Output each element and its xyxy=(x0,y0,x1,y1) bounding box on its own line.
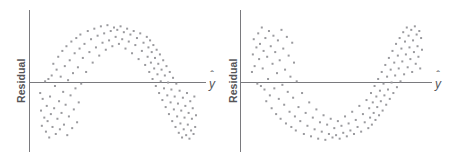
scatter-point xyxy=(61,50,63,52)
scatter-point xyxy=(131,52,133,54)
scatter-point xyxy=(380,100,382,102)
scatter-point xyxy=(403,73,405,75)
scatter-point xyxy=(83,43,85,45)
scatter-point xyxy=(49,96,51,98)
scatter-point xyxy=(417,45,419,47)
scatter-point xyxy=(48,136,50,138)
scatter-point xyxy=(305,112,307,114)
scatter-point xyxy=(90,38,92,40)
scatter-point xyxy=(143,42,145,44)
scatter-point xyxy=(420,37,422,39)
scatter-point xyxy=(282,48,284,50)
scatter-point xyxy=(165,65,167,67)
scatter-point xyxy=(126,28,128,30)
scatter-point xyxy=(139,32,141,34)
scatter-point xyxy=(175,126,177,128)
scatter-point xyxy=(55,133,57,135)
scatter-point xyxy=(396,86,398,88)
scatter-point xyxy=(324,139,326,141)
scatter-point xyxy=(399,37,401,39)
scatter-point xyxy=(121,38,123,40)
scatter-point xyxy=(45,131,47,133)
scatter-point xyxy=(289,111,291,113)
scatter-point xyxy=(269,94,271,96)
scatter-point xyxy=(308,101,310,103)
scatter-point xyxy=(70,41,72,43)
scatter-point xyxy=(67,79,69,81)
scatter-point xyxy=(290,126,292,128)
scatter-point xyxy=(68,115,70,117)
scatter-point xyxy=(74,52,76,54)
x-axis-label-yhat-left: y xyxy=(209,78,215,90)
residual-plot-valley-canvas xyxy=(225,0,451,162)
scatter-point xyxy=(97,35,99,37)
scatter-point xyxy=(299,120,301,122)
scatter-point xyxy=(381,71,383,73)
scatter-point xyxy=(152,78,154,80)
scatter-point xyxy=(253,38,255,40)
scatter-point xyxy=(295,129,297,131)
scatter-point xyxy=(303,133,305,135)
scatter-point xyxy=(79,48,81,50)
scatter-point xyxy=(41,125,43,127)
scatter-point xyxy=(419,67,421,69)
scatter-point xyxy=(179,90,181,92)
scatter-point xyxy=(268,30,270,32)
scatter-point xyxy=(82,57,84,59)
scatter-point xyxy=(150,62,152,64)
scatter-point xyxy=(106,24,108,26)
scatter-point xyxy=(367,127,369,129)
scatter-point xyxy=(388,57,390,59)
scatter-point xyxy=(56,118,58,120)
scatter-point xyxy=(314,128,316,130)
scatter-point xyxy=(401,60,403,62)
scatter-point xyxy=(194,126,196,128)
scatter-point xyxy=(80,83,82,85)
scatter-point xyxy=(260,85,262,87)
scatter-point xyxy=(371,124,373,126)
scatter-point xyxy=(171,120,173,122)
scatter-point xyxy=(416,34,418,36)
scatter-point xyxy=(351,111,353,113)
scatter-point xyxy=(168,113,170,115)
scatter-point xyxy=(193,133,195,135)
scatter-point xyxy=(40,110,42,112)
scatter-point xyxy=(70,94,72,96)
scatter-point xyxy=(252,53,254,55)
scatter-point xyxy=(368,107,370,109)
scatter-point xyxy=(406,27,408,29)
scatter-point xyxy=(417,56,419,58)
scatter-point xyxy=(297,106,299,108)
scatter-point xyxy=(259,43,261,45)
scatter-point xyxy=(169,71,171,73)
scatter-point xyxy=(292,97,294,99)
scatter-point xyxy=(369,117,371,119)
scatter-point xyxy=(408,35,410,37)
scatter-point xyxy=(161,99,163,101)
scatter-point xyxy=(141,50,143,52)
scatter-point xyxy=(193,96,195,98)
scatter-point xyxy=(147,56,149,58)
residual-plot-valley-panel: Residual y xyxy=(225,0,451,162)
scatter-point xyxy=(346,135,348,137)
scatter-point xyxy=(118,43,120,45)
scatter-point xyxy=(162,59,164,61)
scatter-point xyxy=(180,110,182,112)
scatter-point xyxy=(398,67,400,69)
scatter-point xyxy=(74,87,76,89)
scatter-point xyxy=(264,37,266,39)
scatter-point xyxy=(328,133,330,135)
scatter-point xyxy=(188,112,190,114)
scatter-point xyxy=(384,64,386,66)
residual-plots-figure: Residual y Residual y xyxy=(0,0,451,162)
scatter-point xyxy=(156,73,158,75)
y-axis-label-residual-left: Residual xyxy=(16,58,27,103)
scatter-point xyxy=(284,69,286,71)
scatter-point xyxy=(120,25,122,27)
scatter-point-group xyxy=(251,25,423,140)
scatter-point xyxy=(257,32,259,34)
scatter-point xyxy=(374,119,376,121)
scatter-point xyxy=(78,101,80,103)
scatter-point xyxy=(174,96,176,98)
scatter-point xyxy=(166,94,168,96)
